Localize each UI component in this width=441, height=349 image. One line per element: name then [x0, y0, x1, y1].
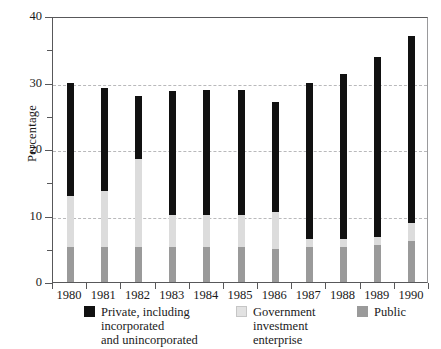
- y-tick-label: 0: [2, 276, 42, 289]
- bar-segment-government-1982: [135, 159, 142, 247]
- bar-segment-government-1988: [340, 239, 347, 246]
- y-tick-label: 20: [2, 143, 42, 156]
- gridline: [53, 85, 427, 86]
- bar-segment-government-1984: [203, 215, 210, 248]
- bar-1983: [169, 91, 176, 282]
- bar-segment-public-1990: [408, 241, 415, 282]
- y-tick: [45, 84, 52, 85]
- bar-segment-public-1986: [272, 249, 279, 282]
- legend-swatch-public-icon: [357, 306, 368, 317]
- bar-1990: [408, 36, 415, 282]
- bar-segment-private-1988: [340, 74, 347, 240]
- legend-label-private: Private, including incorporated and unin…: [101, 305, 198, 347]
- bar-segment-private-1986: [272, 102, 279, 212]
- bar-segment-public-1989: [374, 245, 381, 282]
- legend-label-public: Public: [374, 305, 406, 319]
- bar-1984: [203, 90, 210, 282]
- bar-1980: [67, 83, 74, 283]
- legend-item-government: Government investment enterprise: [236, 305, 315, 347]
- bar-segment-government-1990: [408, 223, 415, 241]
- bar-segment-private-1984: [203, 90, 210, 214]
- bar-segment-public-1984: [203, 247, 210, 282]
- x-tick: [428, 283, 429, 289]
- legend-swatch-government-icon: [236, 306, 247, 317]
- legend-label-government: Government investment enterprise: [253, 305, 315, 347]
- y-tick: [45, 150, 52, 151]
- bar-segment-private-1983: [169, 91, 176, 215]
- chart-figure: Percentage 010203040 1980198119821983198…: [0, 0, 441, 349]
- bar-1982: [135, 96, 142, 282]
- bar-segment-private-1980: [67, 83, 74, 196]
- bar-segment-government-1989: [374, 237, 381, 244]
- bar-1988: [340, 74, 347, 282]
- bar-segment-private-1989: [374, 57, 381, 238]
- bar-segment-private-1985: [238, 90, 245, 215]
- x-tick-label-1990: 1990: [391, 289, 431, 303]
- bar-segment-public-1982: [135, 247, 142, 282]
- bar-1985: [238, 90, 245, 282]
- legend-item-public: Public: [357, 305, 406, 319]
- bar-1987: [306, 83, 313, 283]
- bar-1989: [374, 57, 381, 282]
- bar-segment-government-1985: [238, 215, 245, 247]
- y-axis-title: Percentage: [25, 74, 40, 194]
- bar-segment-private-1990: [408, 36, 415, 223]
- bar-segment-public-1987: [306, 247, 313, 282]
- bar-segment-public-1985: [238, 247, 245, 282]
- y-tick-label: 30: [2, 77, 42, 90]
- bar-segment-private-1987: [306, 83, 313, 240]
- bar-segment-public-1988: [340, 247, 347, 282]
- bar-segment-public-1980: [67, 247, 74, 282]
- bar-segment-public-1981: [101, 247, 108, 282]
- bar-segment-government-1981: [101, 191, 108, 248]
- bar-1981: [101, 88, 108, 282]
- bar-segment-private-1981: [101, 88, 108, 191]
- legend-swatch-private-icon: [84, 306, 95, 317]
- legend-item-private: Private, including incorporated and unin…: [84, 305, 198, 347]
- y-tick-label: 10: [2, 210, 42, 223]
- bar-segment-government-1986: [272, 212, 279, 249]
- bar-segment-private-1982: [135, 96, 142, 159]
- bar-segment-government-1980: [67, 196, 74, 247]
- plot-area: [52, 17, 428, 283]
- y-tick: [45, 283, 52, 284]
- y-tick: [45, 217, 52, 218]
- chart-legend: Private, including incorporated and unin…: [0, 305, 441, 349]
- bar-segment-government-1983: [169, 215, 176, 248]
- bar-segment-public-1983: [169, 247, 176, 282]
- bar-1986: [272, 102, 279, 282]
- y-tick-label: 40: [2, 10, 42, 23]
- y-tick: [45, 17, 52, 18]
- bar-segment-government-1987: [306, 239, 313, 247]
